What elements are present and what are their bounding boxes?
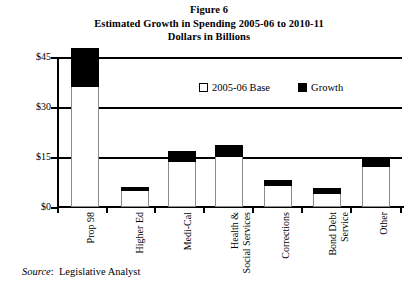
legend-swatch-growth-icon bbox=[298, 83, 307, 92]
x-label-line-1: Higher Ed bbox=[134, 212, 145, 253]
legend-label-growth: Growth bbox=[311, 82, 343, 93]
x-label-line-1: Bond Debt bbox=[327, 212, 338, 256]
bar-bond-debt-service[interactable] bbox=[313, 188, 341, 207]
y-axis-labels: $45 $30 $15 $0 bbox=[6, 0, 51, 295]
bar-other-base bbox=[362, 167, 390, 207]
bar-medi-cal-growth bbox=[168, 151, 196, 162]
source-label: Source bbox=[22, 266, 51, 277]
legend-item-growth[interactable]: Growth bbox=[298, 82, 343, 93]
source-note: Source: Legislative Analyst bbox=[22, 266, 140, 277]
source-separator: : bbox=[51, 266, 54, 277]
bar-health-social-services-growth bbox=[215, 145, 243, 157]
legend-item-base[interactable]: 2005-06 Base bbox=[199, 82, 270, 93]
bar-health-social-services[interactable] bbox=[215, 145, 243, 207]
bar-prop-98-base bbox=[71, 87, 99, 207]
bar-health-social-services-base bbox=[215, 157, 243, 207]
figure-title: Estimated Growth in Spending 2005-06 to … bbox=[0, 17, 418, 31]
x-label-line-1: Other bbox=[378, 212, 389, 235]
bar-corrections[interactable] bbox=[264, 180, 292, 207]
x-label-line-1: Health & bbox=[229, 212, 240, 249]
x-label-line-1: Medi-Cal bbox=[182, 212, 193, 250]
legend-swatch-base-icon bbox=[199, 83, 208, 92]
y-tick-label-45: $45 bbox=[13, 52, 51, 62]
x-label-line-1: Prop 98 bbox=[85, 212, 96, 243]
bar-medi-cal[interactable] bbox=[168, 151, 196, 207]
figure-number: Figure 6 bbox=[0, 3, 418, 17]
figure-title-block: Figure 6 Estimated Growth in Spending 20… bbox=[0, 3, 418, 44]
x-axis-label-other: Other bbox=[343, 212, 413, 282]
bar-medi-cal-base bbox=[168, 162, 196, 207]
bar-other[interactable] bbox=[362, 159, 390, 207]
y-tick-label-15: $15 bbox=[13, 152, 51, 162]
figure-subtitle: Dollars in Billions bbox=[0, 30, 418, 44]
chart-legend: 2005-06 Base Growth bbox=[196, 78, 346, 96]
y-tick-label-30: $30 bbox=[13, 102, 51, 112]
source-value: Legislative Analyst bbox=[59, 266, 140, 277]
legend-label-base: 2005-06 Base bbox=[212, 82, 270, 93]
figure-container: Figure 6 Estimated Growth in Spending 20… bbox=[0, 0, 418, 295]
y-tick-label-0: $0 bbox=[13, 202, 51, 212]
gridline-45 bbox=[57, 57, 402, 59]
bar-corrections-base bbox=[264, 186, 292, 207]
bar-prop-98-growth bbox=[71, 48, 99, 87]
bar-higher-ed-base bbox=[121, 191, 149, 207]
gridline-30 bbox=[57, 107, 402, 109]
x-label-line-1: Corrections bbox=[280, 212, 291, 259]
bar-bond-debt-service-base bbox=[313, 194, 341, 207]
bar-prop-98[interactable] bbox=[71, 48, 99, 207]
bar-other-growth bbox=[362, 159, 390, 167]
bar-higher-ed[interactable] bbox=[121, 187, 149, 207]
